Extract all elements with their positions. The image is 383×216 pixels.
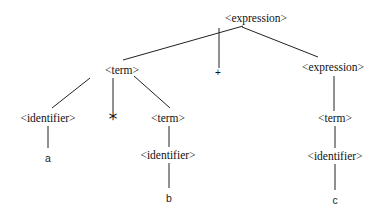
leaf-a: a: [45, 153, 51, 164]
leaf-c: c: [332, 195, 337, 206]
edge-term-identifier: [52, 78, 90, 108]
node-star-operator: *: [109, 111, 118, 128]
leaf-b: b: [166, 193, 172, 204]
node-identifier-left: <identifier>: [20, 113, 75, 125]
node-right-expression: <expression>: [302, 62, 364, 74]
edge-term-term: [134, 76, 170, 108]
tree-edges: [0, 0, 383, 216]
node-term: <term>: [105, 65, 139, 77]
node-term-right: <term>: [318, 113, 352, 125]
edge-expression-term: [123, 26, 243, 60]
node-identifier-right: <identifier>: [307, 151, 362, 163]
parse-tree-diagram: <expression> <term> + <expression> <iden…: [0, 0, 383, 216]
node-identifier-middle: <identifier>: [140, 150, 195, 162]
edge-expression-expression: [242, 27, 318, 57]
node-root-expression: <expression>: [225, 13, 287, 25]
node-plus-operator: +: [215, 68, 221, 78]
node-term-middle: <term>: [151, 113, 185, 125]
